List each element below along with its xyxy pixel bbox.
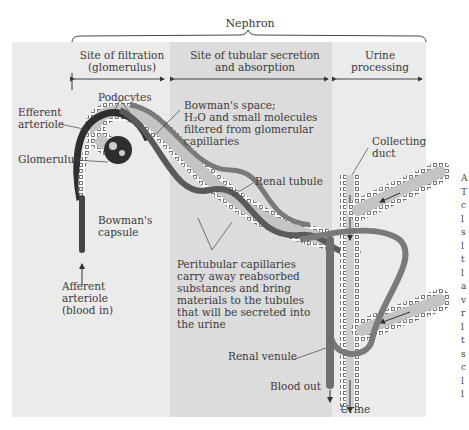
label-collecting-duct: Collecting duct: [372, 135, 426, 159]
nephron-illustration: [0, 0, 469, 430]
glomerulus: [104, 136, 132, 164]
label-urine: Urine: [340, 403, 370, 415]
label-glomerulus: Glomerulus: [18, 153, 80, 165]
label-renal-tubule: Renal tubule: [255, 175, 323, 187]
label-afferent-arteriole: Afferent arteriole (blood in): [62, 280, 113, 316]
label-efferent-arteriole: Efferent arteriole: [18, 106, 64, 130]
label-renal-venule: Renal venule: [228, 350, 297, 362]
label-bowmans-capsule: Bowman's capsule: [98, 214, 152, 238]
nephron-brace: [72, 30, 426, 42]
label-bowmans-space: Bowman's space; H₂O and small molecules …: [184, 99, 318, 147]
label-podocytes: Podocytes: [98, 91, 152, 103]
cropped-side-text: ATc lsl tla vrl tsc ll: [461, 172, 468, 402]
label-blood-out: Blood out: [270, 380, 321, 392]
label-peritubular-capillaries: Peritubular capillaries carry away reabs…: [177, 258, 310, 330]
